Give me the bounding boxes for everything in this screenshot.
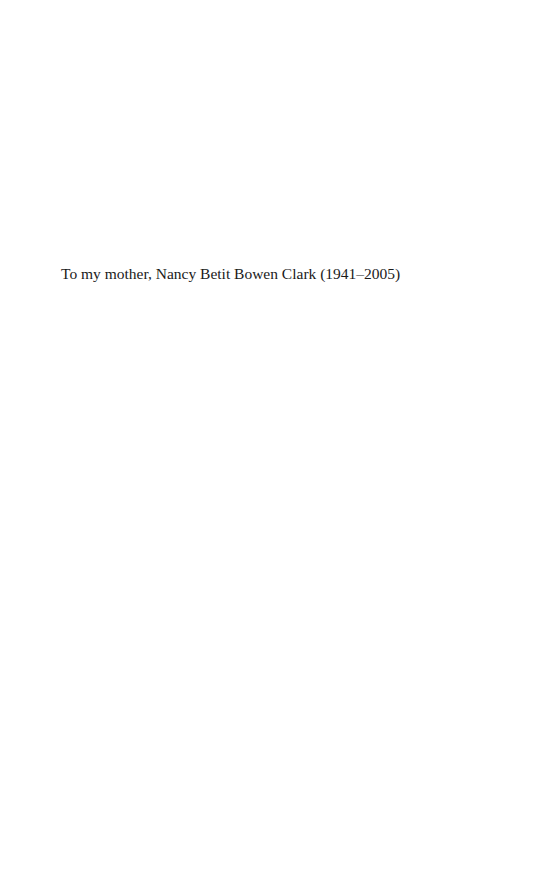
document-page: To my mother, Nancy Betit Bowen Clark (1… <box>0 0 538 888</box>
dedication-text: To my mother, Nancy Betit Bowen Clark (1… <box>61 264 400 284</box>
